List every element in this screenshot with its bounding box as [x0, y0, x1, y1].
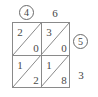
right-label-row-1: 3 [76, 70, 86, 81]
top-label-col-0-value: 4 [24, 7, 29, 18]
puzzle-diagram: 4 6 5 3 2 0 3 0 1 2 1 8 [0, 0, 98, 97]
top-label-col-1: 6 [50, 8, 60, 19]
right-label-row-0-value: 5 [78, 36, 83, 47]
grid-lines [0, 0, 98, 97]
cell-r1c1-lower-right-value: 8 [59, 75, 69, 86]
cell-r0c0-upper-left-value: 2 [15, 27, 25, 38]
cell-r0c1-lower-right-value: 0 [59, 43, 69, 54]
cell-r1c0-lower-right-value: 2 [31, 75, 41, 86]
top-label-col-0-circled: 4 [19, 5, 34, 20]
right-label-row-0-circled: 5 [73, 34, 88, 49]
cell-r0c0-lower-right-value: 0 [31, 43, 41, 54]
cell-r1c1-upper-left-value: 1 [44, 60, 54, 71]
cell-r0c1-upper-left-value: 3 [44, 27, 54, 38]
cell-r1c0-upper-left-value: 1 [15, 60, 25, 71]
